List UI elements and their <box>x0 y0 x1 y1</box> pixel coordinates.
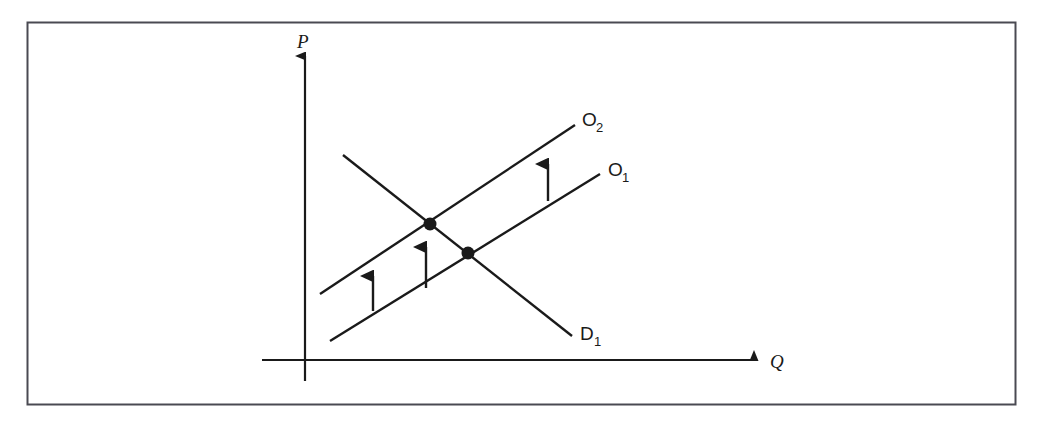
curve-label-d1-base: D <box>580 323 594 344</box>
curve-label-o1-base: O <box>608 159 623 180</box>
supply-demand-diagram: P Q O 2 O 1 D 1 <box>0 0 1038 432</box>
figure-background <box>0 0 1038 432</box>
y-axis-label: P <box>296 31 309 52</box>
figure-container: P Q O 2 O 1 D 1 <box>0 0 1038 432</box>
curve-label-o1-subscript: 1 <box>622 170 629 185</box>
curve-label-o2-subscript: 2 <box>596 120 603 135</box>
curve-label-d1-subscript: 1 <box>594 334 601 349</box>
curve-label-o2-base: O <box>582 109 597 130</box>
equilibrium-point-original <box>462 247 475 260</box>
ghost-line-2 <box>340 61 345 77</box>
x-axis-label: Q <box>770 351 784 372</box>
equilibrium-point-new <box>424 218 437 231</box>
ghost-line-1 <box>340 35 345 51</box>
